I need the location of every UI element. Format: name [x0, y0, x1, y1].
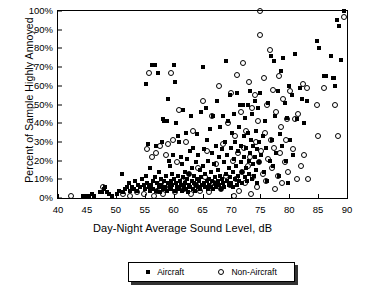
x-tick-label: 45 [82, 198, 93, 215]
data-point-aircraft [188, 149, 192, 153]
data-point-aircraft [194, 160, 198, 164]
data-point-non-aircraft [268, 137, 274, 143]
y-tick-label: 0% [0, 193, 58, 203]
data-point-aircraft [291, 153, 295, 157]
data-point-non-aircraft [248, 191, 254, 197]
data-point-non-aircraft [239, 169, 245, 175]
data-point-aircraft [264, 146, 268, 150]
data-point-non-aircraft [163, 152, 169, 158]
data-point-non-aircraft [186, 171, 192, 177]
data-point-aircraft [166, 97, 170, 101]
data-point-aircraft [280, 144, 284, 148]
data-point-non-aircraft [134, 189, 140, 195]
filled-square-icon [146, 270, 150, 274]
data-point-non-aircraft [305, 176, 311, 182]
data-point-non-aircraft [285, 169, 291, 175]
data-point-non-aircraft [262, 130, 268, 136]
data-point-aircraft [208, 127, 212, 131]
data-point-non-aircraft [269, 165, 275, 171]
y-tick-label: 90% [0, 25, 58, 35]
data-point-non-aircraft [279, 180, 285, 186]
data-point-non-aircraft [267, 47, 273, 53]
data-point-aircraft [242, 155, 246, 159]
data-point-aircraft [185, 157, 189, 161]
data-point-aircraft [251, 162, 255, 166]
x-tick-label: 85 [313, 198, 324, 215]
data-point-aircraft [195, 132, 199, 136]
data-point-aircraft [302, 121, 306, 125]
data-point-non-aircraft [260, 171, 266, 177]
data-point-non-aircraft [295, 111, 301, 117]
data-point-non-aircraft [335, 133, 341, 139]
data-point-non-aircraft [292, 116, 298, 122]
data-point-aircraft [167, 159, 171, 163]
x-tick-label: 55 [139, 198, 150, 215]
data-point-non-aircraft [278, 124, 284, 130]
data-point-aircraft [254, 129, 258, 133]
data-point-aircraft [201, 164, 205, 168]
data-point-aircraft [332, 76, 336, 80]
legend-label-non-aircraft: Non-Aircraft [231, 267, 276, 277]
data-point-aircraft [258, 91, 262, 95]
data-point-aircraft [148, 166, 152, 170]
y-tick-mark [58, 179, 62, 180]
data-point-aircraft [205, 138, 209, 142]
data-point-non-aircraft [253, 139, 259, 145]
data-point-non-aircraft [68, 193, 74, 199]
x-axis-title: Day-Night Average Sound Level, dB [0, 222, 365, 234]
data-point-non-aircraft [141, 191, 147, 197]
data-point-non-aircraft [249, 105, 255, 111]
data-point-aircraft [144, 174, 148, 178]
data-point-aircraft [231, 170, 235, 174]
data-point-non-aircraft [315, 133, 321, 139]
data-point-aircraft [342, 9, 346, 13]
data-point-aircraft [218, 125, 222, 129]
y-tick-mark [58, 67, 62, 68]
data-point-non-aircraft [181, 186, 187, 192]
data-point-aircraft [324, 74, 328, 78]
data-point-non-aircraft [179, 178, 185, 184]
data-point-aircraft [144, 82, 148, 86]
y-tick-mark [58, 48, 62, 49]
data-point-aircraft [281, 56, 285, 60]
data-point-non-aircraft [235, 150, 241, 156]
data-point-aircraft [224, 59, 228, 63]
data-point-aircraft [300, 97, 304, 101]
y-tick-label: 60% [0, 81, 58, 91]
data-point-aircraft [179, 155, 183, 159]
data-point-aircraft [190, 166, 194, 170]
data-point-non-aircraft [100, 184, 106, 190]
data-point-non-aircraft [271, 145, 277, 151]
data-point-non-aircraft [250, 174, 256, 180]
data-point-aircraft [110, 194, 114, 198]
data-point-non-aircraft [263, 178, 269, 184]
data-point-non-aircraft [190, 128, 196, 134]
data-point-aircraft [237, 125, 241, 129]
data-point-aircraft [156, 71, 160, 75]
data-point-non-aircraft [176, 107, 182, 113]
data-point-non-aircraft [127, 193, 133, 199]
data-point-aircraft [189, 114, 193, 118]
y-tick-mark [58, 29, 62, 30]
data-point-aircraft [170, 172, 174, 176]
data-point-non-aircraft [223, 173, 229, 179]
data-point-aircraft [233, 140, 237, 144]
data-point-non-aircraft [270, 87, 276, 93]
legend-item-aircraft: Aircraft [146, 267, 184, 277]
chart-legend: Aircraft Non-Aircraft [128, 262, 295, 282]
data-point-non-aircraft [241, 145, 247, 151]
data-point-aircraft [235, 183, 239, 187]
data-point-non-aircraft [332, 102, 338, 108]
data-point-aircraft [176, 174, 180, 178]
data-point-aircraft [279, 69, 283, 73]
data-point-aircraft [214, 144, 218, 148]
y-tick-label: 50% [0, 100, 58, 110]
data-point-non-aircraft [273, 109, 279, 115]
data-point-aircraft [241, 103, 245, 107]
data-point-non-aircraft [225, 120, 231, 126]
data-point-aircraft [180, 162, 184, 166]
data-point-aircraft [235, 91, 239, 95]
x-tick-label: 65 [197, 198, 208, 215]
data-point-aircraft [153, 175, 157, 179]
data-point-aircraft [157, 170, 161, 174]
